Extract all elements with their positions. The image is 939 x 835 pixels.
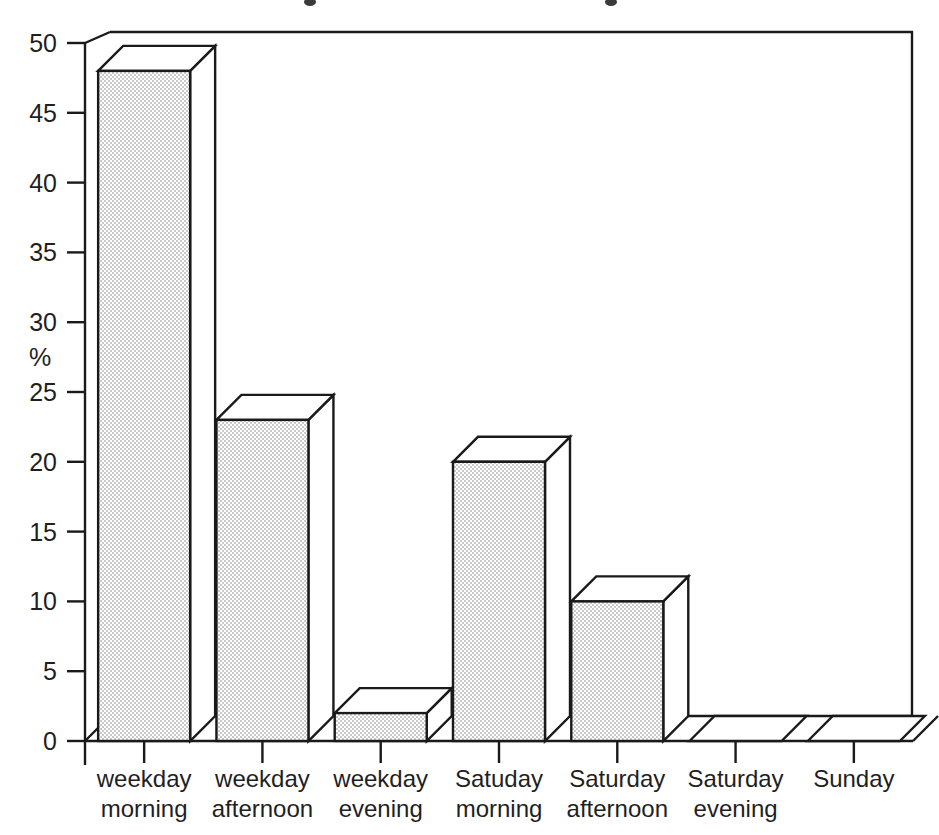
y-tick-label: 15 — [29, 518, 57, 546]
y-tick-label: 5 — [43, 657, 57, 685]
y-tick-label: 25 — [29, 378, 57, 406]
y-tick-label: 45 — [29, 99, 57, 127]
bar-2[interactable] — [335, 688, 452, 741]
y-tick-label: 0 — [43, 727, 57, 755]
bar-chart-svg: 50 45 40 35 30 25 20 15 10 5 0 % weekday… — [0, 0, 939, 835]
category-label: weekdayafternoon — [212, 765, 313, 822]
cropped-title-artifacts — [304, 0, 617, 6]
y-tick-label: 20 — [29, 448, 57, 476]
bar-0[interactable] — [98, 46, 215, 741]
category-label: weekdaymorning — [96, 765, 192, 822]
y-axis-ticks — [67, 43, 85, 741]
bar-6[interactable] — [808, 716, 925, 741]
bar-3[interactable] — [453, 437, 570, 741]
y-tick-label: 30 — [29, 308, 57, 336]
chart-container: 50 45 40 35 30 25 20 15 10 5 0 % weekday… — [0, 0, 939, 835]
x-axis-ticks — [144, 741, 854, 763]
category-label: Saturdayafternoon — [567, 765, 668, 822]
y-axis-title: % — [29, 343, 51, 371]
x-axis-category-labels: weekdaymorningweekdayafternoonweekdayeve… — [96, 765, 895, 822]
y-axis-tick-labels: 50 45 40 35 30 25 20 15 10 5 0 — [29, 29, 57, 755]
bar-5[interactable] — [690, 716, 807, 741]
category-label: Sunday — [813, 765, 894, 792]
y-tick-label: 10 — [29, 587, 57, 615]
y-tick-label: 40 — [29, 169, 57, 197]
category-label: Saturdayevening — [688, 765, 784, 822]
category-label: Satudaymorning — [455, 765, 543, 822]
y-tick-label: 35 — [29, 238, 57, 266]
y-tick-label: 50 — [29, 29, 57, 57]
category-label: weekdayevening — [332, 765, 428, 822]
bar-1[interactable] — [216, 395, 333, 741]
bar-4[interactable] — [571, 576, 688, 741]
bars-layer — [98, 46, 925, 741]
